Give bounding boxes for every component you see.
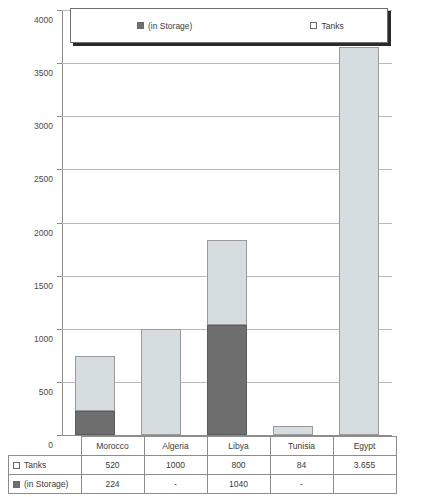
legend-label-in-storage: (in Storage) — [148, 21, 192, 31]
dark-gray-swatch-icon — [13, 481, 20, 488]
table-cell: 520 — [81, 456, 144, 475]
table-cell — [333, 475, 396, 494]
chart-data-table: MoroccoAlgeriaLibyaTunisiaEgyptTanks5201… — [8, 436, 397, 494]
bar-segment-tanks — [141, 329, 181, 435]
table-row-label: Tanks — [24, 460, 46, 470]
y-axis-tick — [57, 223, 62, 224]
y-axis-tick — [57, 116, 62, 117]
dark-gray-swatch-icon — [137, 22, 144, 29]
bar-group — [75, 10, 115, 435]
table-column-header: Algeria — [144, 437, 207, 456]
bar-segment-in-storage — [75, 411, 115, 435]
table-row: Tanks5201000800843.655 — [9, 456, 397, 475]
table-column-header: Libya — [207, 437, 270, 456]
legend-label-tanks: Tanks — [321, 21, 343, 31]
table-header-row: MoroccoAlgeriaLibyaTunisiaEgypt — [9, 437, 397, 456]
bar-group — [207, 10, 247, 435]
y-axis-tick-label: 1000 — [0, 335, 53, 344]
legend-item-in-storage: (in Storage) — [137, 21, 192, 31]
y-axis-tick-label: 500 — [0, 388, 53, 397]
table-cell: 1040 — [207, 475, 270, 494]
stacked-bar-chart: 05001000150020002500300035004000 (in Sto… — [0, 0, 438, 497]
y-axis-tick-label: 4000 — [0, 16, 53, 25]
light-gray-swatch-icon — [310, 22, 317, 29]
table-row-header: (in Storage) — [9, 475, 82, 494]
y-axis-tick-label: 1500 — [0, 282, 53, 291]
bar-segment-tanks — [273, 426, 313, 435]
table-row: (in Storage)224-1040- — [9, 475, 397, 494]
bar-segment-tanks — [339, 47, 379, 435]
table-column-header: Egypt — [333, 437, 396, 456]
chart-legend: (in Storage) Tanks — [70, 8, 388, 43]
bar-group — [273, 10, 313, 435]
y-axis-tick-label: 3000 — [0, 122, 53, 131]
table-cell: 3.655 — [333, 456, 396, 475]
y-axis-tick-label: 2500 — [0, 175, 53, 184]
table-column-header: Morocco — [81, 437, 144, 456]
y-axis-tick — [57, 382, 62, 383]
table-corner-cell — [9, 437, 82, 456]
bar-group — [141, 10, 181, 435]
y-axis-tick — [57, 329, 62, 330]
y-axis-tick — [57, 63, 62, 64]
legend-item-tanks: Tanks — [310, 21, 343, 31]
y-axis-tick-label: 2000 — [0, 229, 53, 238]
table-row-header: Tanks — [9, 456, 82, 475]
table-cell: 800 — [207, 456, 270, 475]
table-row-label: (in Storage) — [24, 479, 68, 489]
bar-group — [339, 10, 379, 435]
table-cell: 224 — [81, 475, 144, 494]
y-axis-tick — [57, 10, 62, 11]
y-axis-tick-label: 3500 — [0, 69, 53, 78]
table-cell: 1000 — [144, 456, 207, 475]
light-gray-swatch-icon — [13, 462, 20, 469]
bar-segment-tanks — [207, 240, 247, 325]
bar-segment-in-storage — [207, 325, 247, 436]
table-cell: - — [144, 475, 207, 494]
table-cell: 84 — [270, 456, 333, 475]
plot-area: 05001000150020002500300035004000 — [62, 10, 392, 435]
table-cell: - — [270, 475, 333, 494]
y-axis-tick — [57, 169, 62, 170]
bar-segment-tanks — [75, 356, 115, 411]
table-column-header: Tunisia — [270, 437, 333, 456]
y-axis-tick — [57, 276, 62, 277]
